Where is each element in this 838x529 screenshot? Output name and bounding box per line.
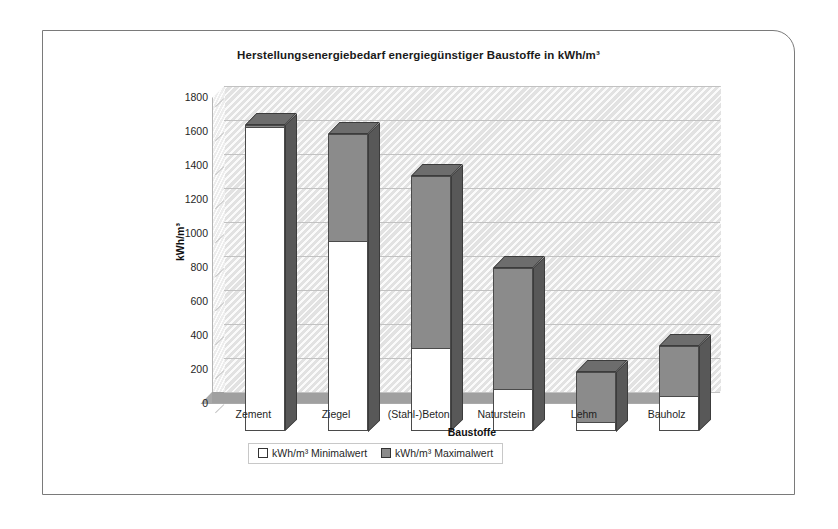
x-axis-title: Baustoffe bbox=[212, 426, 732, 438]
bar-side-face bbox=[616, 360, 628, 431]
legend-item[interactable]: kWh/m³ Maximalwert bbox=[381, 447, 493, 459]
plot-area: 020040060080010001200140016001800 kWh/m³… bbox=[212, 86, 732, 431]
gridline bbox=[224, 86, 720, 87]
y-tick-label: 0 bbox=[148, 397, 208, 409]
bar-side-face bbox=[368, 122, 380, 431]
bar-front-face bbox=[493, 268, 533, 431]
bar-front-face bbox=[245, 125, 285, 431]
white-square-icon bbox=[258, 448, 268, 458]
x-tick-label: Zement bbox=[212, 408, 295, 420]
gridline bbox=[224, 188, 720, 189]
gridline bbox=[224, 324, 720, 325]
bar-column[interactable] bbox=[493, 268, 533, 431]
y-tick-label: 1600 bbox=[148, 125, 208, 137]
bar-segment-maximalwert bbox=[412, 177, 450, 350]
bar-segment-maximalwert bbox=[494, 269, 532, 391]
legend-item[interactable]: kWh/m³ Minimalwert bbox=[258, 447, 367, 459]
chart-frame: Herstellungsenergiebedarf energiegünstig… bbox=[42, 30, 795, 495]
bar-front-face bbox=[576, 372, 616, 432]
legend-label: kWh/m³ Maximalwert bbox=[395, 447, 493, 459]
gridline bbox=[224, 290, 720, 291]
legend-label: kWh/m³ Minimalwert bbox=[272, 447, 367, 459]
bar-column[interactable] bbox=[245, 125, 285, 431]
gridline bbox=[224, 358, 720, 359]
bar-front-face bbox=[328, 134, 368, 432]
chart-legend: kWh/m³ MinimalwertkWh/m³ Maximalwert bbox=[248, 443, 503, 464]
bar-front-face bbox=[411, 176, 451, 431]
gridline bbox=[224, 256, 720, 257]
x-tick-label: Lehm bbox=[543, 408, 626, 420]
x-tick-label: Bauholz bbox=[625, 408, 708, 420]
y-tick-label: 1800 bbox=[148, 91, 208, 103]
x-tick-label: Naturstein bbox=[460, 408, 543, 420]
bar-column[interactable] bbox=[411, 176, 451, 431]
bar-side-face bbox=[285, 113, 297, 431]
x-tick-label: Ziegel bbox=[295, 408, 378, 420]
gridline bbox=[224, 120, 720, 121]
bar-side-face bbox=[451, 164, 463, 431]
y-tick-label: 200 bbox=[148, 363, 208, 375]
bar-side-face bbox=[533, 256, 545, 431]
chart-title: Herstellungsenergiebedarf energiegünstig… bbox=[43, 49, 794, 61]
bar-segment-maximalwert bbox=[660, 347, 698, 398]
x-tick-label: (Stahl-)Beton bbox=[377, 408, 460, 420]
gridline bbox=[224, 222, 720, 223]
y-axis-title: kWh/m³ bbox=[174, 152, 186, 332]
bar-column[interactable] bbox=[328, 134, 368, 432]
gridline bbox=[224, 154, 720, 155]
gray-square-icon bbox=[381, 448, 391, 458]
plot-back-wall bbox=[224, 86, 721, 393]
bar-segment-minimalwert bbox=[329, 241, 367, 430]
bar-segment-minimalwert bbox=[246, 127, 284, 430]
bar-column[interactable] bbox=[576, 372, 616, 432]
gridline bbox=[224, 392, 720, 393]
bar-segment-maximalwert bbox=[329, 135, 367, 244]
